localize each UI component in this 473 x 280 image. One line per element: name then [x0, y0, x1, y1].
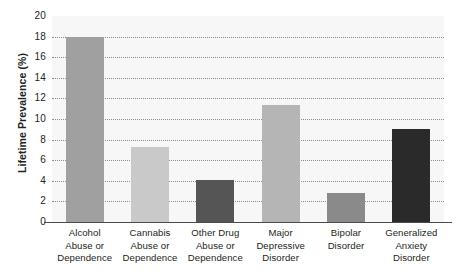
bar[interactable] [131, 147, 169, 222]
bar[interactable] [327, 193, 365, 222]
y-axis-tick-labels: 02468101214161820 [22, 16, 46, 222]
y-tick-label: 6 [22, 155, 46, 165]
y-tick-label: 16 [22, 52, 46, 62]
bar-slot [313, 16, 378, 222]
x-axis-line [44, 222, 452, 223]
y-tick-label: 20 [22, 11, 46, 21]
bar[interactable] [196, 180, 234, 222]
bar[interactable] [66, 37, 104, 222]
y-tick-label: 14 [22, 73, 46, 83]
bar-slot [183, 16, 248, 222]
x-tick-label-line: Disorder [314, 240, 377, 253]
y-tick-label: 8 [22, 135, 46, 145]
x-tick-label: Other DrugAbuse orDependence [183, 227, 248, 265]
x-tick-label-line: Dependence [184, 252, 247, 265]
y-tick-label: 12 [22, 93, 46, 103]
x-tick-label-line: Abuse or [118, 240, 181, 253]
x-tick-label-line: Dependence [53, 252, 116, 265]
x-tick-label-line: Depressive [249, 240, 312, 253]
x-axis-tick-labels: AlcoholAbuse orDependenceCannabisAbuse o… [52, 227, 444, 265]
x-tick-label-line: Other Drug [184, 227, 247, 240]
x-tick-label: BipolarDisorder [313, 227, 378, 265]
y-tick-label: 0 [22, 217, 46, 227]
y-tick-label: 10 [22, 114, 46, 124]
bars-layer [52, 16, 444, 222]
x-tick-label-line: Anxiety [380, 240, 443, 253]
x-tick-label-line: Dependence [118, 252, 181, 265]
x-tick-label: GeneralizedAnxietyDisorder [379, 227, 444, 265]
bar-slot [52, 16, 117, 222]
x-tick-label-line: Generalized [380, 227, 443, 240]
x-tick-label-line: Major [249, 227, 312, 240]
bar-slot [117, 16, 182, 222]
y-tick-label: 18 [22, 32, 46, 42]
bar-slot [379, 16, 444, 222]
x-tick-label: AlcoholAbuse orDependence [52, 227, 117, 265]
x-tick-label-line: Abuse or [184, 240, 247, 253]
x-tick-label-line: Bipolar [314, 227, 377, 240]
x-tick-label-line: Abuse or [53, 240, 116, 253]
y-tick-label: 4 [22, 176, 46, 186]
x-tick-label-line: Cannabis [118, 227, 181, 240]
x-tick-label-line: Disorder [380, 252, 443, 265]
bar[interactable] [392, 129, 430, 222]
bar-chart-figure: Lifetime Prevalence (%) 0246810121416182… [0, 0, 473, 280]
x-tick-label: CannabisAbuse orDependence [117, 227, 182, 265]
y-tick-label: 2 [22, 196, 46, 206]
x-tick-label: MajorDepressiveDisorder [248, 227, 313, 265]
bar-slot [248, 16, 313, 222]
x-tick-label-line: Disorder [249, 252, 312, 265]
bar[interactable] [262, 105, 300, 222]
plot-area [52, 16, 444, 222]
x-tick-label-line: Alcohol [53, 227, 116, 240]
